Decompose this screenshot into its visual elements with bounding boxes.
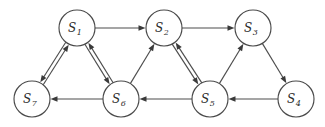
edge-s6-to-s1-line <box>91 47 113 82</box>
edge-s3-to-s4-line <box>262 43 283 78</box>
edge-s5-to-s3-arrowhead-icon <box>237 44 243 51</box>
state-transition-diagram: S1S2S3S4S5S6S7 <box>0 0 325 127</box>
edge-s5-to-s2-arrowhead-icon <box>176 42 182 49</box>
node-s5[interactable]: S5 <box>192 81 228 117</box>
node-s1[interactable]: S1 <box>59 10 95 46</box>
node-s2[interactable]: S2 <box>146 10 182 46</box>
edge-s7-to-s1-line <box>43 49 66 85</box>
graph-canvas: S1S2S3S4S5S6S7 <box>0 0 325 127</box>
edge-s6-to-s2-arrowhead-icon <box>148 44 154 51</box>
edge-s2-to-s3-arrowhead-icon <box>228 25 235 30</box>
edge-s5-to-s2-line <box>179 47 202 83</box>
edge-s5-to-s6-arrowhead-icon <box>140 96 147 101</box>
edge-s2-to-s5-line <box>172 44 195 80</box>
node-s4[interactable]: S4 <box>278 81 314 117</box>
node-s7[interactable]: S7 <box>14 81 50 117</box>
edge-s2-to-s5-arrowhead-icon <box>192 77 198 84</box>
edge-s1-to-s6-line <box>85 44 107 79</box>
node-s6[interactable]: S6 <box>103 81 139 117</box>
edge-s6-to-s2-line <box>130 49 151 84</box>
edge-s4-to-s5-arrowhead-icon <box>229 96 236 101</box>
node-layer: S1S2S3S4S5S6S7 <box>14 10 314 117</box>
edge-s6-to-s7-arrowhead-icon <box>51 96 58 101</box>
edge-s6-to-s1-arrowhead-icon <box>88 43 94 50</box>
edge-s1-to-s7-line <box>43 42 66 78</box>
edge-s1-to-s2-arrowhead-icon <box>139 25 146 30</box>
edge-s5-to-s3-line <box>219 49 240 84</box>
node-s3[interactable]: S3 <box>235 10 271 46</box>
edge-s1-to-s6-arrowhead-icon <box>104 77 110 84</box>
edge-s3-to-s4-arrowhead-icon <box>280 76 286 83</box>
